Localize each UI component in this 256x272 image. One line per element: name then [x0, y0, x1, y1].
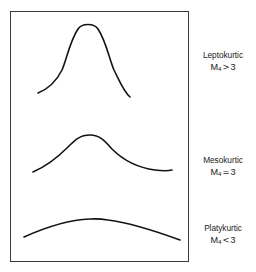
moment-symbol-platykurtic: M	[210, 235, 218, 245]
comparator-platykurtic: <	[221, 235, 230, 245]
moment-symbol-mesokurtic: M	[210, 167, 218, 177]
moment-subscript-leptokurtic: 4	[218, 65, 221, 72]
legend-item-mesokurtic: Mesokurtic M4=3	[192, 156, 254, 178]
comparator-mesokurtic: =	[221, 167, 230, 177]
legend-formula-leptokurtic: M4>3	[192, 62, 254, 73]
moment-subscript-platykurtic: 4	[218, 238, 221, 245]
legend-label-mesokurtic: Mesokurtic	[192, 156, 254, 166]
legend-label-leptokurtic: Leptokurtic	[192, 51, 254, 61]
legend-formula-platykurtic: M4<3	[192, 235, 254, 246]
plot-frame	[10, 11, 189, 262]
moment-symbol-leptokurtic: M	[210, 62, 218, 72]
comparator-leptokurtic: >	[221, 62, 230, 72]
comparison-value-mesokurtic: 3	[231, 167, 236, 177]
legend-item-leptokurtic: Leptokurtic M4>3	[192, 51, 254, 73]
kurtosis-figure: Leptokurtic M4>3 Mesokurtic M4=3 Platyku…	[0, 0, 256, 272]
comparison-value-platykurtic: 3	[231, 235, 236, 245]
moment-subscript-mesokurtic: 4	[218, 170, 221, 177]
legend-formula-mesokurtic: M4=3	[192, 167, 254, 178]
legend-label-platykurtic: Platykurtic	[192, 224, 254, 234]
comparison-value-leptokurtic: 3	[231, 62, 236, 72]
legend-item-platykurtic: Platykurtic M4<3	[192, 224, 254, 246]
